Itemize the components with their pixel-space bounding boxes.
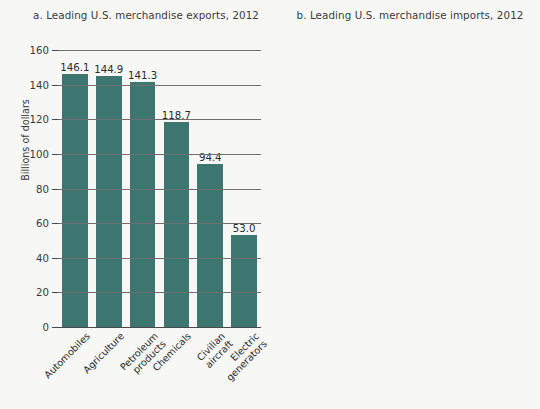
- bar-value-label-exports-2: 141.3: [128, 70, 157, 82]
- y-axis-label-exports: Billions of dollars: [20, 80, 31, 200]
- y-tick-label-exports-80: 80: [36, 183, 49, 194]
- y-tick-label-exports-20: 20: [36, 287, 49, 298]
- gridline-exports-0: [58, 327, 261, 328]
- y-tick-label-exports-160: 160: [30, 45, 49, 56]
- y-tick-exports-140: [52, 85, 58, 86]
- bar-exports-0: [62, 74, 88, 327]
- y-tick-label-exports-120: 120: [30, 114, 49, 125]
- y-tick-label-exports-0: 0: [43, 322, 49, 333]
- gridline-exports-60: [58, 223, 261, 224]
- y-tick-exports-40: [52, 258, 58, 259]
- plot-area-exports: 146.1144.9141.3118.794.453.0 02040608010…: [58, 50, 261, 327]
- gridline-exports-120: [58, 119, 261, 120]
- y-tick-exports-80: [52, 189, 58, 190]
- gridline-exports-20: [58, 292, 261, 293]
- y-tick-exports-160: [52, 50, 58, 51]
- chart-panel-exports: a. Leading U.S. merchandise exports, 201…: [0, 0, 270, 409]
- gridline-exports-80: [58, 189, 261, 190]
- gridline-exports-100: [58, 154, 261, 155]
- bar-value-label-exports-0: 146.1: [60, 62, 89, 74]
- chart-panel-imports: b. Leading U.S. merchandise imports, 201…: [270, 0, 540, 409]
- gridline-exports-140: [58, 85, 261, 86]
- panel-title-exports: a. Leading U.S. merchandise exports, 201…: [0, 9, 270, 21]
- y-tick-exports-0: [52, 327, 58, 328]
- panel-title-imports: b. Leading U.S. merchandise imports, 201…: [270, 9, 540, 21]
- y-tick-label-exports-100: 100: [30, 148, 49, 159]
- y-tick-exports-20: [52, 292, 58, 293]
- y-tick-label-exports-60: 60: [36, 218, 49, 229]
- gridline-exports-160: [58, 50, 261, 51]
- bar-exports-3: [164, 122, 190, 327]
- y-tick-exports-60: [52, 223, 58, 224]
- y-tick-label-exports-140: 140: [30, 79, 49, 90]
- bar-exports-1: [96, 76, 122, 327]
- bar-value-label-exports-5: 53.0: [233, 223, 256, 235]
- bar-exports-5: [231, 235, 257, 327]
- y-tick-exports-100: [52, 154, 58, 155]
- x-axis-label-exports-0: Automobiles: [43, 331, 93, 381]
- y-tick-label-exports-40: 40: [36, 252, 49, 263]
- gridline-exports-40: [58, 258, 261, 259]
- bar-value-label-exports-1: 144.9: [94, 64, 123, 76]
- y-tick-exports-120: [52, 119, 58, 120]
- figure-container: a. Leading U.S. merchandise exports, 201…: [0, 0, 540, 409]
